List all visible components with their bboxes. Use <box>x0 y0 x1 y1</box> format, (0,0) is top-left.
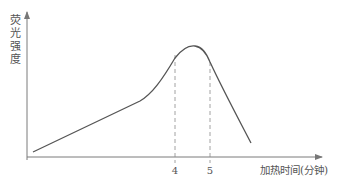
y-label-char: 强 <box>10 40 21 53</box>
x-tick-4: 4 <box>172 165 178 176</box>
y-label-char: 光 <box>10 26 21 40</box>
x-tick-5: 5 <box>207 165 213 176</box>
fluorescence-curve <box>33 46 251 152</box>
x-axis-label: 加热时间(分钟) <box>260 164 328 176</box>
y-label-char: 荧 <box>10 13 21 27</box>
y-label-char: 度 <box>10 52 21 66</box>
y-axis-label: 荧 光 强 度 <box>10 13 21 66</box>
chart-canvas: 荧 光 强 度 4 5 加热时间(分钟) <box>0 0 338 188</box>
